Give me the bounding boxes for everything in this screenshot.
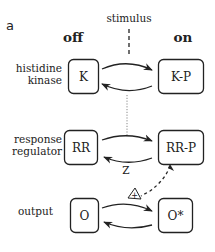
arrow-ostar-to-o [104,222,152,228]
row-label-kinase: kinase [28,74,62,86]
column-header-off: off [63,29,84,45]
stimulus-label: stimulus [106,12,151,24]
arrow-rrp-to-rr [104,157,152,162]
node-k-p: K-P [159,60,204,94]
column-header-on: on [174,29,193,45]
svg-text:RR: RR [72,141,91,155]
row-label-histidine: histidine [16,62,62,74]
row-label-regulator: regulator [12,145,63,157]
activation-dashed-arrow [141,166,170,196]
two-component-signaling-diagram: a stimulus off on histidine kinase K K-P… [0,0,215,252]
node-rr: RR [65,131,98,165]
row-label-output: output [18,205,54,217]
arrow-o-to-ostar [102,204,152,211]
node-k: K [69,60,99,94]
node-rr-p: RR-P [159,131,204,165]
svg-text:RR-P: RR-P [166,141,196,155]
svg-text:K: K [79,70,89,84]
arrow-rr-to-rrp [102,136,152,141]
node-o: O [71,199,99,233]
arrow-k-to-kp [102,64,152,70]
activation-plus-triangle: + [128,188,141,200]
svg-text:+: + [131,191,138,200]
node-o-star: O* [159,199,193,233]
svg-text:O: O [80,209,90,223]
panel-label: a [6,18,14,33]
row-label-response: response [14,133,62,145]
arrow-kp-to-k [102,84,152,91]
svg-text:O*: O* [168,209,184,223]
svg-text:K-P: K-P [171,70,191,84]
phosphatase-label-z: Z [122,164,129,176]
